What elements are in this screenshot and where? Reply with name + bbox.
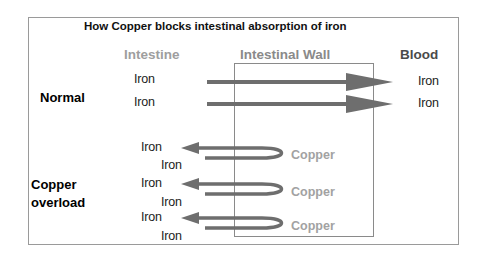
arrows-layer <box>0 0 483 261</box>
return-arrow-icon <box>181 178 282 194</box>
return-arrow-icon <box>181 142 282 158</box>
arrow-right-icon <box>207 95 393 113</box>
arrow-right-icon <box>207 73 393 91</box>
return-arrow-icon <box>181 212 282 228</box>
